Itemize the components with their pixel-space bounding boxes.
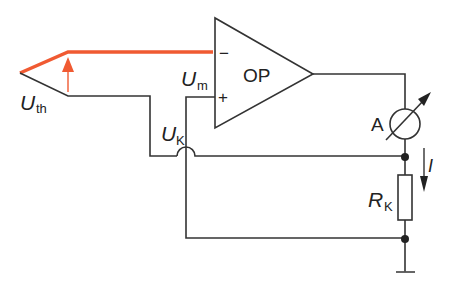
label-um: U m: [181, 67, 208, 93]
svg-text:th: th: [36, 101, 47, 116]
junction-node-bottom: [401, 235, 409, 243]
svg-text:K: K: [384, 199, 393, 214]
junction-node-top: [401, 153, 409, 161]
current-arrow-icon: [420, 148, 428, 192]
current-label: I: [428, 156, 433, 176]
svg-text:U: U: [20, 91, 36, 114]
ammeter-label: A: [371, 114, 384, 135]
resistor-rk: [398, 175, 412, 220]
circuit-diagram: − + OP A I U th U m U K R K: [0, 0, 455, 290]
label-rk: R K: [368, 188, 393, 214]
thermo-voltage-arrow-icon: [62, 57, 74, 92]
svg-text:R: R: [368, 188, 383, 211]
svg-text:U: U: [181, 67, 197, 90]
svg-text:m: m: [197, 78, 208, 93]
wire-bridge-hop: [177, 147, 405, 156]
ammeter-symbol: [386, 92, 431, 140]
svg-text:K: K: [176, 133, 185, 148]
opamp-label: OP: [243, 65, 270, 86]
opamp-plus-sign: +: [218, 88, 228, 107]
opamp-minus-sign: −: [219, 44, 229, 63]
opamp-output-wire: [313, 74, 405, 112]
svg-text:U: U: [161, 122, 177, 145]
label-uth: U th: [20, 91, 47, 116]
label-uk: U K: [161, 122, 185, 148]
